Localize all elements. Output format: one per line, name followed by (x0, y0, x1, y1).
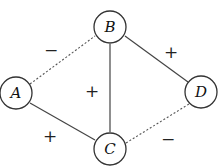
edge-a-c (30, 103, 95, 140)
sign-b-c: + (85, 81, 99, 101)
node-a: A (0, 77, 32, 109)
node-d-label: D (194, 83, 207, 101)
node-c: C (94, 133, 126, 165)
sign-a-c: + (43, 126, 57, 146)
node-c-label: C (104, 140, 116, 158)
node-a-label: A (9, 84, 22, 102)
edge-b-d (125, 36, 188, 82)
signed-graph-diagram: − + + + − A B C D (0, 0, 219, 167)
node-b: B (94, 11, 126, 43)
sign-a-b: − (44, 40, 58, 60)
node-b-label: B (103, 18, 115, 36)
node-d: D (185, 76, 217, 108)
edge-a-b (30, 36, 95, 84)
sign-b-d: + (164, 42, 178, 62)
edge-c-d (126, 104, 189, 143)
sign-c-d: − (161, 129, 175, 149)
